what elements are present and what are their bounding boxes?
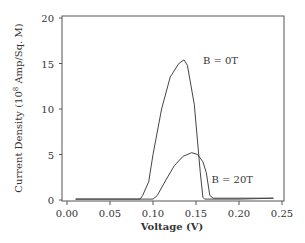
x-tick-label: 0.10 xyxy=(142,208,164,219)
y-tick-label: 20 xyxy=(41,13,54,24)
series-annotation: B = 20T xyxy=(211,174,253,185)
y-tick-label: 0 xyxy=(48,195,54,206)
x-axis-title: Voltage (V) xyxy=(140,221,203,232)
y-tick-label: 5 xyxy=(48,150,54,161)
y-axis-ticks: 05101520 xyxy=(41,13,62,206)
series-annotation: B = 0T xyxy=(203,55,238,66)
x-tick-label: 0.00 xyxy=(56,208,78,219)
x-tick-label: 0.15 xyxy=(185,208,207,219)
x-tick-label: 0.25 xyxy=(271,208,293,219)
chart: 0.000.050.100.150.200.25 05101520 B = 0T… xyxy=(0,0,305,243)
x-axis-ticks: 0.000.050.100.150.200.25 xyxy=(56,201,293,219)
y-axis-title: Current Density (108 Amp/Sq. M) xyxy=(12,23,24,192)
y-tick-label: 10 xyxy=(41,104,54,115)
x-tick-label: 0.05 xyxy=(99,208,121,219)
annotations: B = 0TB = 20T xyxy=(203,55,253,185)
x-tick-label: 0.20 xyxy=(228,208,250,219)
y-tick-label: 15 xyxy=(41,59,54,70)
